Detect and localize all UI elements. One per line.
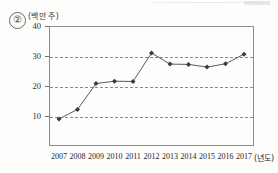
y-axis-unit-label: (백만 주): [28, 10, 59, 21]
data-point-2016: [223, 61, 228, 66]
y-tick-label-20: 20: [25, 81, 41, 91]
x-tick-label-2009: 2009: [88, 152, 104, 161]
x-tick-label-2012: 2012: [144, 152, 160, 161]
item-number-badge: ②: [9, 12, 26, 29]
x-tick-label-2011: 2011: [125, 152, 141, 161]
y-tick-label-10: 10: [25, 111, 41, 121]
data-point-2014: [186, 62, 191, 67]
x-tick-label-2008: 2008: [70, 152, 86, 161]
y-tick-label-30: 30: [25, 51, 41, 61]
line-series-layer: [49, 26, 254, 146]
series-line: [59, 53, 244, 119]
data-point-2007: [57, 117, 62, 122]
x-tick-label-2014: 2014: [181, 152, 197, 161]
data-point-2011: [131, 79, 136, 84]
x-tick-label-2016: 2016: [218, 152, 234, 161]
x-tick-label-2015: 2015: [199, 152, 215, 161]
data-point-2010: [112, 79, 117, 84]
x-tick-label-2007: 2007: [51, 152, 67, 161]
x-tick-label-2013: 2013: [162, 152, 178, 161]
x-tick-label-2017: 2017: [236, 152, 252, 161]
scan-artifact-secondary: [244, 1, 270, 5]
data-point-2013: [168, 62, 173, 67]
y-tick-label-40: 40: [25, 21, 41, 31]
chart-page: ② (백만 주) 10203040 2007200820092010201120…: [0, 0, 278, 173]
x-axis-labels: 2007200820092010201120122013201420152016…: [49, 152, 254, 166]
data-point-2015: [205, 65, 210, 70]
x-tick-label-2010: 2010: [107, 152, 123, 161]
data-point-2012: [149, 51, 154, 56]
x-axis-unit-label: (년도): [254, 152, 274, 163]
data-point-2017: [242, 52, 247, 57]
